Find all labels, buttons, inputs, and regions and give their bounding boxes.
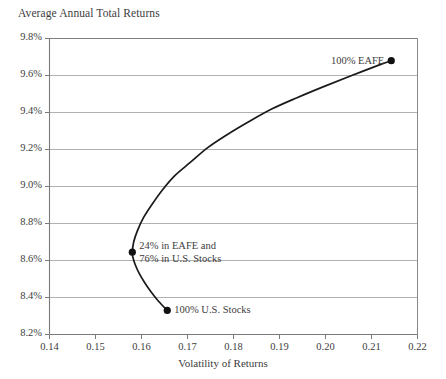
data-markers-group [129,57,395,314]
data-marker-eafe-100 [388,57,395,64]
y-tick-label: 9.0% [8,179,42,190]
data-marker-us-stocks-100 [164,307,171,314]
point-label-line: 24% in EAFE and [139,239,221,252]
data-marker-mix-24-76 [129,249,136,256]
x-tick-label: 0.21 [352,341,392,352]
x-tick-label: 0.15 [76,341,116,352]
tick-marks-group [45,39,418,340]
point-label-line: 76% in U.S. Stocks [139,252,221,265]
point-label-line: 100% U.S. Stocks [174,303,250,316]
y-tick-label: 8.8% [8,216,42,227]
y-tick-label: 8.6% [8,253,42,264]
x-tick-label: 0.17 [168,341,208,352]
y-tick-label: 9.6% [8,68,42,79]
x-tick-label: 0.20 [306,341,346,352]
x-tick-label: 0.16 [122,341,162,352]
y-tick-label: 8.2% [8,327,42,338]
y-tick-label: 9.2% [8,142,42,153]
y-tick-label: 9.4% [8,105,42,116]
gridlines-group [50,39,418,298]
x-tick-label: 0.14 [30,341,70,352]
y-tick-label: 8.4% [8,290,42,301]
point-label-us-stocks-100: 100% U.S. Stocks [174,303,250,316]
point-label-eafe-100: 100% EAFE [331,54,384,67]
x-tick-label: 0.18 [214,341,254,352]
chart-container: Average Annual Total Returns 8.2%8.4%8.6… [0,0,446,379]
point-label-line: 100% EAFE [331,54,384,67]
y-tick-label: 9.8% [8,31,42,42]
point-label-mix-24-76: 24% in EAFE and76% in U.S. Stocks [139,239,221,265]
data-curve-group [132,61,391,311]
x-axis-title: Volatility of Returns [0,357,446,369]
x-tick-label: 0.19 [260,341,300,352]
efficient-frontier-curve [132,61,391,311]
x-tick-label: 0.22 [398,341,438,352]
